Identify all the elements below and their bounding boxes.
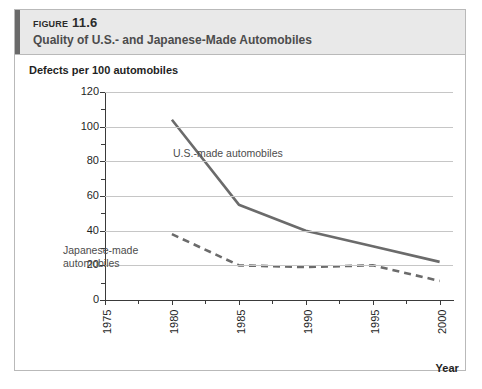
series-annotation-label: Japanese-made automobiles: [63, 244, 138, 270]
x-axis-title: Year: [436, 362, 459, 374]
gridline: [105, 92, 453, 93]
x-axis-minor-tick: [138, 300, 139, 304]
y-axis-tick-label: 0: [55, 293, 99, 305]
series-annotation-label: U.S.-made automobiles: [173, 147, 283, 160]
figure-card: Figure 11.6 Quality of U.S.- and Japanes…: [14, 9, 466, 371]
x-axis-minor-tick: [205, 300, 206, 304]
x-axis-tick-label: 2000: [436, 310, 448, 334]
gridline: [105, 161, 453, 162]
x-axis-tick-label: 1995: [369, 310, 381, 334]
y-axis-minor-tick: [101, 283, 105, 284]
series-line: [172, 120, 440, 262]
x-axis-line: [105, 300, 454, 301]
gridline: [105, 265, 453, 266]
x-axis-tick-label: 1990: [302, 310, 314, 334]
series-line: [172, 234, 440, 281]
y-axis-tick-label: 80: [55, 154, 99, 166]
y-axis-tick-label: 60: [55, 189, 99, 201]
x-axis-tick-label: 1985: [235, 310, 247, 334]
x-axis-tick-mark: [306, 300, 307, 305]
y-axis-tick-mark: [100, 231, 105, 232]
x-axis-tick-mark: [373, 300, 374, 305]
chart-container: Defects per 100 automobiles 020406080100…: [15, 56, 465, 371]
x-axis-tick-mark: [172, 300, 173, 305]
y-axis-tick-mark: [100, 127, 105, 128]
x-axis-tick-label: 1980: [168, 310, 180, 334]
gridline: [105, 196, 453, 197]
gridline: [105, 231, 453, 232]
y-axis-tick-mark: [100, 161, 105, 162]
y-axis-tick-label: 120: [55, 85, 99, 97]
x-axis-minor-tick: [406, 300, 407, 304]
x-axis-tick-label: 1975: [101, 310, 113, 334]
figure-number-label: Figure 11.6: [33, 15, 97, 30]
y-axis-minor-tick: [101, 213, 105, 214]
y-axis-minor-tick: [101, 144, 105, 145]
y-axis-tick-mark: [100, 92, 105, 93]
x-axis-minor-tick: [272, 300, 273, 304]
x-axis-tick-mark: [440, 300, 441, 305]
y-axis-tick-mark: [100, 196, 105, 197]
header-accent-bar: [15, 10, 20, 54]
figure-title: Quality of U.S.- and Japanese-Made Autom…: [33, 33, 312, 47]
figure-header: Figure 11.6 Quality of U.S.- and Japanes…: [15, 10, 465, 55]
y-axis-title: Defects per 100 automobiles: [29, 64, 178, 76]
y-axis-tick-label: 100: [55, 120, 99, 132]
y-axis-minor-tick: [101, 179, 105, 180]
x-axis-minor-tick: [339, 300, 340, 304]
y-axis-tick-label: 40: [55, 224, 99, 236]
x-axis-tick-mark: [105, 300, 106, 305]
y-axis-minor-tick: [101, 109, 105, 110]
gridline: [105, 127, 453, 128]
x-axis-tick-mark: [239, 300, 240, 305]
